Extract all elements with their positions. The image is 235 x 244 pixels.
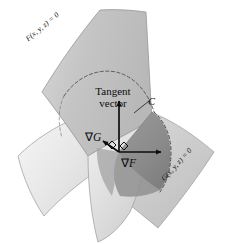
tangent-vector-label-line2: vector [85,98,141,110]
gradient-f-function-name: F [129,157,136,169]
tangent-vector-label: Tangent vector [85,86,141,110]
gradient-g-label: ∇G [85,131,101,143]
gradient-g-function-name: G [93,131,101,143]
curve-c-label: C [148,96,155,107]
figure-container: F(x, y, z) = 0 G(x, y, z) = 0 Tangent ve… [0,0,235,244]
gradient-f-label: ∇F [121,157,136,169]
nabla-g-icon: ∇ [85,131,93,143]
nabla-f-icon: ∇ [121,157,129,169]
